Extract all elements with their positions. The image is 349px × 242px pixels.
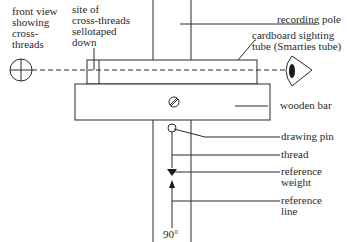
arrow-up-icon [169,180,175,188]
label-sighting-tube: cardboard sighting tube (Smarties tube) [252,30,341,52]
label-cross-thread-site: site of cross-threads sellotaped down [72,4,130,48]
sighting-tube [87,60,257,84]
label-recording-pole: recording pole [277,14,341,25]
front-view-crosshair-icon [10,59,32,81]
label-reference-weight: reference weight [281,166,322,188]
label-reference-line: reference line [281,195,322,217]
drawing-pin-icon [168,124,176,132]
label-front-view: front view showing cross- threads [12,6,58,50]
label-angle: 90° [163,229,178,240]
label-drawing-pin: drawing pin [281,131,334,142]
label-thread: thread [281,149,308,160]
label-wooden-bar: wooden bar [280,100,332,111]
